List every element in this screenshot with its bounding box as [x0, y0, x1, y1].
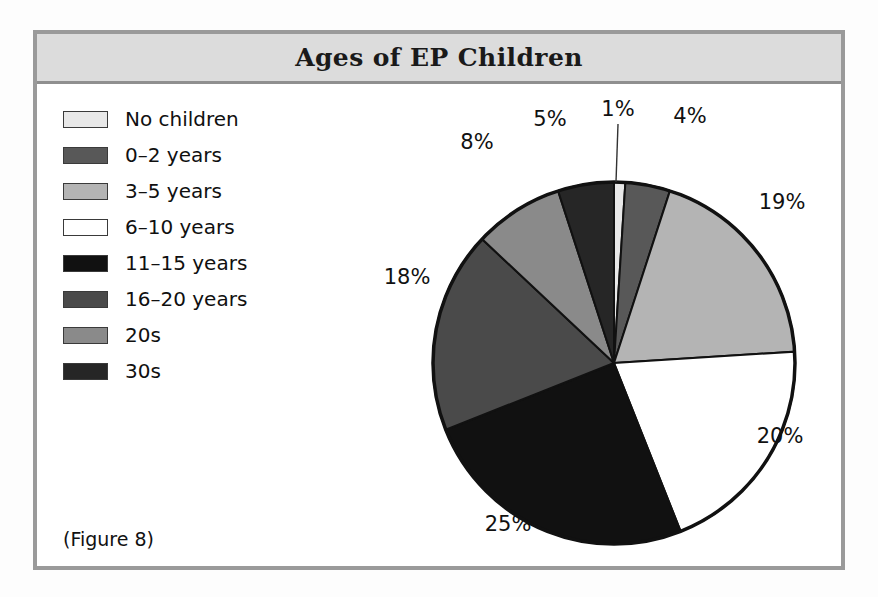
legend-item[interactable]: 11–15 years — [63, 245, 313, 281]
legend-item-label: 6–10 years — [125, 215, 235, 239]
legend-item[interactable]: 20s — [63, 317, 313, 353]
legend-item[interactable]: 30s — [63, 353, 313, 389]
legend-item-label: 20s — [125, 323, 161, 347]
legend-swatch-icon — [63, 327, 108, 344]
chart-legend: No children0–2 years3–5 years6–10 years1… — [63, 101, 313, 389]
legend-item[interactable]: No children — [63, 101, 313, 137]
pie-slice-value-label: 25% — [485, 512, 532, 536]
pie-slice-value-label: 20% — [757, 424, 804, 448]
pie-slice-value-label: 1% — [601, 97, 634, 121]
figure-title-band: Ages of EP Children — [37, 34, 841, 84]
figure-caption: (Figure 8) — [63, 528, 154, 550]
leader-line — [616, 124, 618, 182]
figure-frame: Ages of EP Children No children0–2 years… — [33, 30, 845, 570]
pie-chart: 1%4%19%20%25%18%8%5% — [312, 84, 841, 566]
legend-swatch-icon — [63, 219, 108, 236]
page-title: Ages of EP Children — [295, 43, 583, 72]
pie-slice-value-label: 19% — [759, 190, 806, 214]
legend-swatch-icon — [63, 291, 108, 308]
legend-item-label: 3–5 years — [125, 179, 222, 203]
legend-swatch-icon — [63, 363, 108, 380]
pie-slice-value-label: 18% — [384, 265, 431, 289]
legend-item-label: 0–2 years — [125, 143, 222, 167]
legend-item-label: 16–20 years — [125, 287, 247, 311]
legend-item-label: 11–15 years — [125, 251, 247, 275]
legend-item[interactable]: 0–2 years — [63, 137, 313, 173]
legend-swatch-icon — [63, 147, 108, 164]
legend-item-label: No children — [125, 107, 239, 131]
pie-slice-value-label: 8% — [460, 130, 493, 154]
chart-body: No children0–2 years3–5 years6–10 years1… — [37, 84, 841, 566]
legend-item[interactable]: 3–5 years — [63, 173, 313, 209]
legend-swatch-icon — [63, 111, 108, 128]
pie-chart-svg — [312, 84, 841, 566]
legend-item[interactable]: 6–10 years — [63, 209, 313, 245]
legend-swatch-icon — [63, 255, 108, 272]
pie-slice-value-label: 5% — [533, 107, 566, 131]
legend-swatch-icon — [63, 183, 108, 200]
pie-slice-value-label: 4% — [673, 104, 706, 128]
legend-item[interactable]: 16–20 years — [63, 281, 313, 317]
legend-item-label: 30s — [125, 359, 161, 383]
